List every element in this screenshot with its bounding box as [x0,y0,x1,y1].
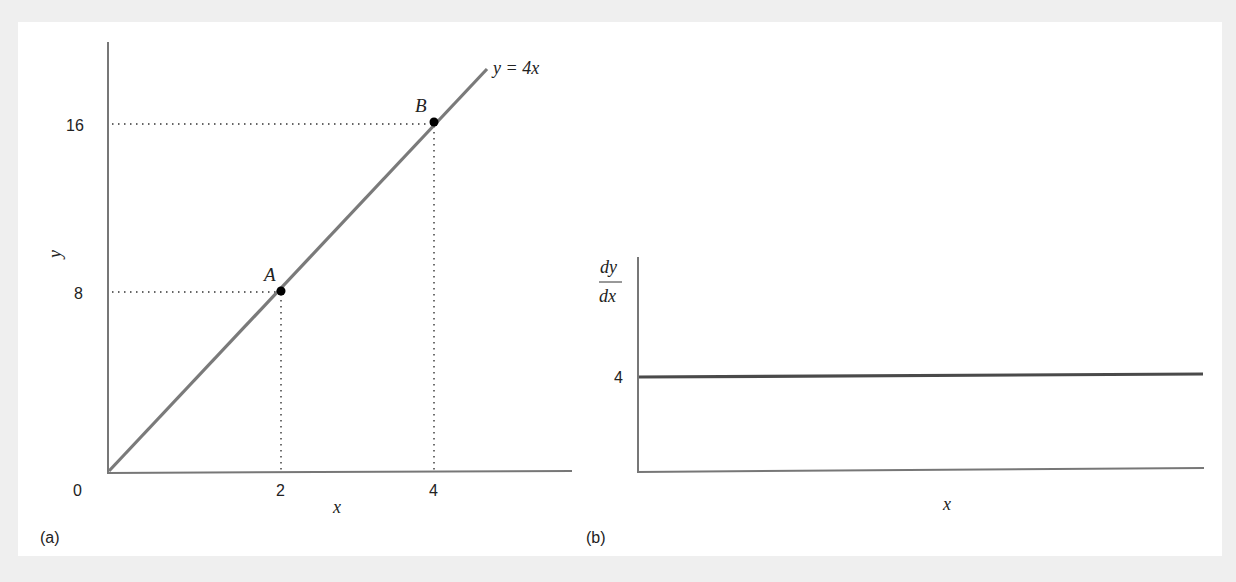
x-tick-4: 4 [429,482,438,499]
point-b [430,118,439,127]
panel-b: dy dx 4 x (b) [586,257,1204,546]
function-line-y-4x [109,69,487,471]
panel-a-label: (a) [40,529,60,546]
y-tick-8: 8 [74,285,83,302]
x-axis-label-a: x [332,497,341,517]
y-axis-label-numerator: dy [600,257,617,277]
x-axis-b [637,468,1204,472]
y-axis-label-denominator: dx [599,286,616,306]
x-axis-a [107,471,572,473]
x-axis-label-b: x [942,494,951,514]
panel-a: A B y = 4x 16 8 0 2 4 x y (a) [40,42,572,546]
point-b-label: B [415,95,427,116]
y-axis-label-a: y [45,250,65,260]
panel-b-label: (b) [586,529,606,546]
point-a-label: A [262,264,276,285]
x-tick-2: 2 [276,482,285,499]
origin-label: 0 [73,482,82,499]
figure-canvas: A B y = 4x 16 8 0 2 4 x y (a) dy dx 4 x … [0,0,1236,582]
point-a [277,287,286,296]
equation-label: y = 4x [491,58,539,78]
y-tick-4-b: 4 [614,369,623,386]
derivative-line [639,374,1203,377]
y-tick-16: 16 [66,117,84,134]
